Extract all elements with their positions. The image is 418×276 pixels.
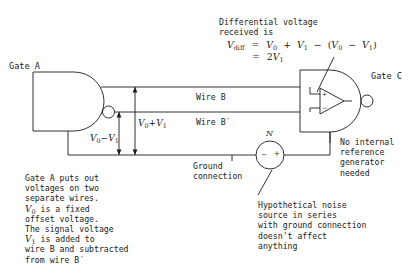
gate-a-desc-line-9: from wire B′ (25, 255, 129, 265)
formula-lhs: V (227, 39, 234, 50)
noise-plus-sign: + (274, 151, 280, 157)
arrowhead-inner-bottom (133, 150, 138, 155)
voltage-label-inner: V0+V1 (138, 118, 167, 130)
arrowhead-inner-top (133, 87, 138, 92)
opamp-minus-sign: − (322, 105, 327, 111)
gate-a-desc-line-5: offset voltage. (25, 214, 129, 224)
formula-close-paren: ) (373, 39, 377, 50)
formula-minus: − (314, 39, 322, 50)
hypothetical-noise-note: Hypothetical noisesource in serieswith g… (258, 200, 366, 251)
formula-leader-line (317, 57, 334, 92)
no-internal-reference-note: No internalreferencegeneratorneeded (340, 137, 394, 178)
voltage-inner-v1-sub: 1 (163, 122, 167, 130)
formula-t4: V (362, 39, 369, 50)
formula-minus-2: − (348, 39, 356, 50)
gate-a-desc-line-3: separate wires. (25, 193, 129, 203)
gate-a-desc-line-4: V0 is a fixed (25, 204, 129, 214)
arrowhead-outer-top (117, 112, 122, 117)
formula-t2: V (297, 39, 304, 50)
arrowhead-outer-bottom (117, 150, 122, 155)
voltage-outer-op: − (101, 133, 109, 143)
noise-minus-sign: − (261, 152, 267, 158)
formula-plus: + (283, 39, 291, 50)
gate-a-desc-line-6: The signal voltage (25, 224, 129, 234)
voltage-outer-v1-sub: 1 (115, 137, 119, 145)
gate-a-output-bubble (103, 106, 115, 118)
wire-b-prime-label: Wire B′ (196, 117, 231, 127)
figure-canvas: Differential voltage received is Vdiff =… (0, 0, 418, 276)
gate-a-desc-line-2: voltages on two (25, 183, 129, 193)
formula-line2-symbol: V (273, 51, 280, 62)
gate-a-label: Gate A (9, 61, 40, 71)
gate-c-output-bubble (361, 95, 373, 107)
formula-equals: = (251, 39, 259, 50)
formula-line-1: Vdiff = V0 + V1 − (V0 − V1) (227, 39, 377, 52)
gate-a-description: Gate A puts out voltages on two separate… (25, 173, 129, 265)
voltage-label-outer: V0−V1 (90, 133, 119, 145)
gate-a-body (33, 72, 104, 131)
ground-connection-note: Groundconnection (193, 161, 242, 181)
gate-a-desc-v1-tail: is added to (36, 234, 95, 244)
formula-lhs-sub: diff (234, 44, 245, 52)
formula-line2-sub: 1 (280, 56, 284, 64)
gate-a-desc-v0-tail: is a fixed (36, 204, 90, 214)
formula-line-2: = 2V1 (252, 51, 284, 64)
voltage-inner-op: + (149, 118, 157, 128)
gate-a-desc-line-1: Gate A puts out (25, 173, 129, 183)
opamp-plus-sign: + (322, 91, 327, 97)
gate-c-label: Gate C (371, 71, 402, 81)
arrowheads (117, 87, 138, 155)
formula-intro-line-1: Differential voltage (219, 17, 318, 27)
noise-source-label: N (266, 129, 273, 138)
gate-a-desc-line-7: V1 is added to (25, 234, 129, 244)
hypothetical-noise-leader (258, 170, 272, 195)
formula-intro-line-2: received is (219, 27, 273, 37)
formula-t2-sub: 1 (304, 44, 308, 52)
gate-a-desc-line-8: wire B and subtracted (25, 244, 129, 254)
wire-b-label: Wire B (196, 92, 226, 102)
formula-line2-equals: = (252, 51, 260, 62)
formula-t3-sub: 0 (338, 44, 342, 52)
